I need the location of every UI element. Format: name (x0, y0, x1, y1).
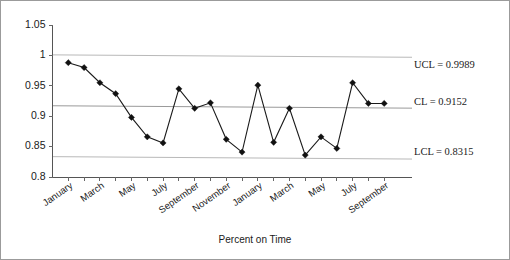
x-tick-label: May (306, 179, 327, 198)
y-axis-tick-labels: 0.80.850.90.9511.05 (25, 18, 46, 182)
x-tick-label: January (230, 179, 264, 208)
data-point-marker (286, 105, 292, 111)
x-tick-label: March (268, 180, 296, 204)
cl-annotation: CL = 0.9152 (414, 96, 467, 107)
y-tick-label: 1.05 (25, 18, 46, 30)
chart-canvas: 0.80.850.90.9511.05 JanuaryMarchMayJulyS… (0, 0, 510, 260)
y-tick-label: 0.8 (31, 170, 46, 182)
x-tick-label: July (339, 179, 359, 198)
data-point-marker (65, 60, 71, 66)
x-tick-label: January (40, 179, 74, 208)
ucl-annotation: UCL = 0.9989 (414, 59, 475, 70)
ucl-line (53, 55, 413, 57)
figure-border (1, 1, 510, 260)
x-tick-label: March (78, 180, 106, 204)
lcl-line (53, 157, 413, 159)
control-chart: 0.80.850.90.9511.05 JanuaryMarchMayJulyS… (0, 0, 510, 260)
data-point-marker (160, 140, 166, 146)
x-axis-tick-labels: JanuaryMarchMayJulySeptemberNovemberJanu… (40, 179, 390, 215)
center-line (53, 106, 413, 108)
data-point-marker (255, 82, 261, 88)
lcl-annotation: LCL = 0.8315 (414, 146, 474, 157)
y-tick-label: 0.95 (25, 79, 46, 91)
data-point-marker (381, 100, 387, 106)
x-tick-label: May (117, 179, 138, 198)
y-tick-label: 0.85 (25, 139, 46, 151)
y-tick-label: 1 (40, 48, 46, 60)
x-axis-title: Percent on Time (219, 234, 292, 245)
data-point-marker (207, 100, 213, 106)
control-limit-lines (53, 55, 413, 159)
y-tick-label: 0.9 (31, 109, 46, 121)
x-tick-label: July (149, 179, 169, 198)
data-point-marker (271, 139, 277, 145)
data-series (65, 60, 387, 159)
